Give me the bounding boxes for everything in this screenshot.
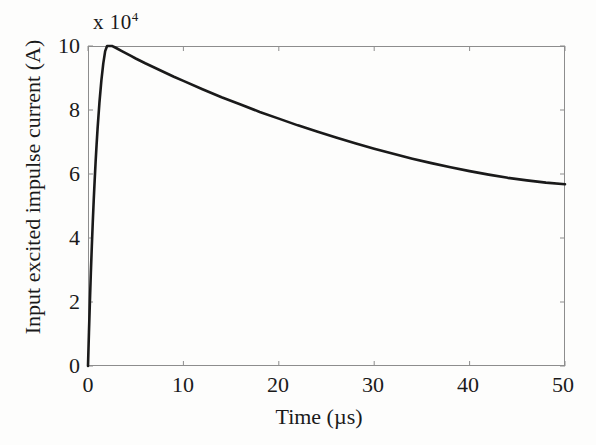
x-axis-title-text: Time (µs) [233, 406, 362, 428]
y-axis-multiplier-exponent: 4 [132, 9, 139, 24]
figure-container: x 104 Input excited impulse current (A) … [0, 0, 596, 445]
x-tick-label-0: 0 [83, 374, 94, 396]
chart-canvas [88, 46, 565, 366]
x-axis-title: Time (µs) [0, 406, 596, 428]
y-tick-label-4: 4 [69, 227, 80, 249]
y-tick-label-2: 2 [69, 291, 80, 313]
x-tick-label-20: 20 [267, 374, 289, 396]
x-tick-label-50: 50 [552, 374, 574, 396]
y-tick-label-10: 10 [58, 35, 80, 57]
x-tick-label-40: 40 [457, 374, 479, 396]
plot-area [88, 46, 565, 366]
series-line-input-excited-impulse-current [88, 46, 565, 366]
y-axis-multiplier: x 104 [93, 12, 139, 33]
x-tick-label-30: 30 [362, 374, 384, 396]
y-tick-label-8: 8 [69, 99, 80, 121]
y-axis-multiplier-prefix: x 10 [93, 10, 132, 34]
x-tick-label-10: 10 [172, 374, 194, 396]
tick-marks [88, 46, 565, 366]
y-tick-label-6: 6 [69, 163, 80, 185]
x-axis-tick-labels: 0 10 20 30 40 50 [0, 374, 596, 404]
